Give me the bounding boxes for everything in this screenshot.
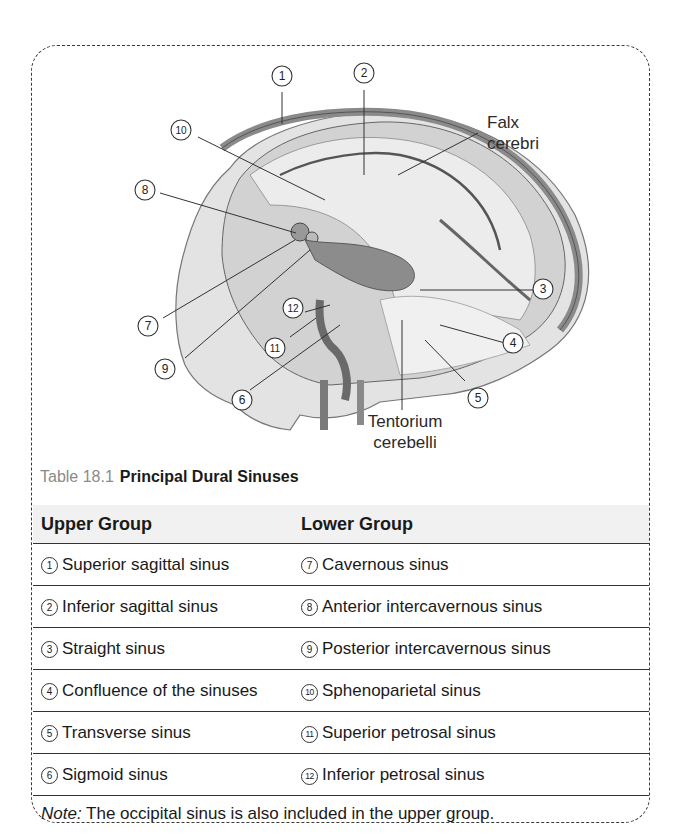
cell-text: Superior petrosal sinus (322, 723, 496, 742)
cell-text: Inferior petrosal sinus (322, 765, 485, 784)
cell-text: Straight sinus (62, 639, 165, 658)
table-row: 5Transverse sinus 11Superior petrosal si… (33, 712, 649, 754)
table-row: 3Straight sinus 9Posterior intercavernou… (33, 628, 649, 670)
svg-text:3: 3 (540, 282, 547, 296)
tentorium-cerebelli-label: Tentorium cerebelli (359, 411, 451, 453)
svg-text:7: 7 (145, 319, 152, 333)
lower-cell: 8Anterior intercavernous sinus (301, 596, 542, 617)
upper-cell: 5Transverse sinus (41, 722, 191, 743)
lower-cell: 10Sphenoparietal sinus (301, 680, 481, 701)
upper-cell: 3Straight sinus (41, 638, 165, 659)
svg-text:5: 5 (475, 391, 482, 405)
tentorium-label-line1: Tentorium (359, 411, 451, 432)
table-row: 1Superior sagittal sinus 7Cavernous sinu… (33, 544, 649, 586)
cell-text: Confluence of the sinuses (62, 681, 258, 700)
number-badge-icon: 8 (301, 599, 318, 616)
upper-cell: 4Confluence of the sinuses (41, 680, 258, 701)
lower-cell: 7Cavernous sinus (301, 554, 449, 575)
cell-text: Sphenoparietal sinus (322, 681, 481, 700)
table-row: 6Sigmoid sinus 12Inferior petrosal sinus (33, 754, 649, 796)
lower-cell: 12Inferior petrosal sinus (301, 764, 485, 785)
svg-text:2: 2 (361, 66, 368, 80)
lower-cell: 9Posterior intercavernous sinus (301, 638, 551, 659)
number-badge-icon: 6 (41, 767, 58, 784)
number-badge-icon: 4 (41, 683, 58, 700)
svg-text:4: 4 (510, 336, 517, 350)
number-badge-icon: 12 (301, 768, 318, 785)
falx-label-line1: Falx (487, 112, 539, 133)
number-badge-icon: 3 (41, 641, 58, 658)
upper-cell: 1Superior sagittal sinus (41, 554, 229, 575)
table-caption: Table 18.1Principal Dural Sinuses (40, 467, 299, 487)
tentorium-label-line2: cerebelli (359, 432, 451, 453)
number-badge-icon: 5 (41, 725, 58, 742)
table-title: Principal Dural Sinuses (120, 468, 299, 485)
svg-text:8: 8 (142, 183, 149, 197)
cell-text: Cavernous sinus (322, 555, 449, 574)
cell-text: Transverse sinus (62, 723, 191, 742)
cell-text: Posterior intercavernous sinus (322, 639, 551, 658)
svg-text:11: 11 (270, 343, 281, 354)
cell-text: Inferior sagittal sinus (62, 597, 218, 616)
upper-cell: 6Sigmoid sinus (41, 764, 168, 785)
dural-sinus-illustration: 1 2 3 4 5 6 7 8 9 10 11 12 Falx cerebri … (0, 0, 682, 460)
falx-label-line2: cerebri (487, 133, 539, 154)
falx-cerebri-label: Falx cerebri (487, 112, 539, 154)
number-badge-icon: 9 (301, 641, 318, 658)
svg-text:9: 9 (162, 362, 169, 376)
svg-text:6: 6 (239, 393, 246, 407)
table-number: Table 18.1 (40, 468, 114, 485)
number-badge-icon: 10 (301, 684, 318, 701)
note-label: Note: (41, 804, 82, 823)
upper-cell: 2Inferior sagittal sinus (41, 596, 218, 617)
svg-text:12: 12 (287, 303, 299, 314)
cell-text: Anterior intercavernous sinus (322, 597, 542, 616)
skull-sagittal-drawing: 1 2 3 4 5 6 7 8 9 10 11 12 (0, 0, 682, 460)
number-badge-icon: 11 (301, 726, 318, 743)
number-badge-icon: 2 (41, 599, 58, 616)
svg-text:1: 1 (279, 69, 286, 83)
table-header-row: Upper Group Lower Group (33, 505, 649, 544)
number-badge-icon: 1 (41, 557, 58, 574)
table-row: 4Confluence of the sinuses 10Sphenoparie… (33, 670, 649, 712)
table-note: Note: The occipital sinus is also includ… (41, 803, 494, 824)
cell-text: Sigmoid sinus (62, 765, 168, 784)
cell-text: Superior sagittal sinus (62, 555, 229, 574)
note-text: The occipital sinus is also included in … (82, 804, 495, 823)
number-badge-icon: 7 (301, 557, 318, 574)
table-row: 2Inferior sagittal sinus 8Anterior inter… (33, 586, 649, 628)
svg-text:10: 10 (175, 125, 187, 136)
header-upper-group: Upper Group (41, 513, 152, 535)
dural-sinus-table: Upper Group Lower Group 1Superior sagitt… (33, 505, 649, 796)
header-lower-group: Lower Group (301, 513, 413, 535)
lower-cell: 11Superior petrosal sinus (301, 722, 496, 743)
